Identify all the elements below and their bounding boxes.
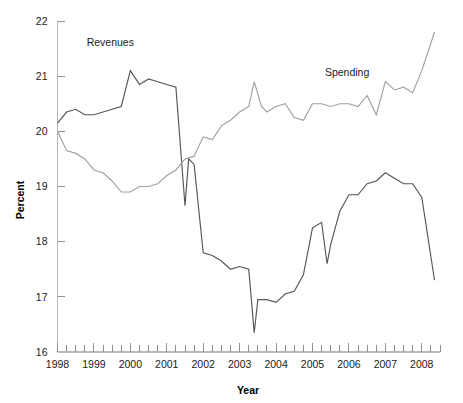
y-tick-label-20: 20 — [36, 125, 48, 137]
x-tick-label-2002: 2002 — [192, 358, 216, 370]
y-tick-label-18: 18 — [36, 235, 48, 247]
y-tick-label-19: 19 — [36, 180, 48, 192]
series-annotation-revenues: Revenues — [87, 36, 134, 48]
x-tick-label-2007: 2007 — [374, 358, 398, 370]
x-tick-label-2003: 2003 — [228, 358, 252, 370]
series-annotation-spending: Spending — [325, 66, 370, 78]
x-tick-label-1999: 1999 — [82, 358, 106, 370]
y-tick-label-17: 17 — [36, 291, 48, 303]
x-axis-tick-labels: 1998199920002001200220032004200520062007… — [46, 358, 434, 370]
x-axis-title: Year — [237, 384, 259, 396]
x-tick-label-2000: 2000 — [119, 358, 143, 370]
x-tick-label-2001: 2001 — [155, 358, 179, 370]
chart-container: 16171819202122 1998199920002001200220032… — [0, 0, 463, 403]
y-tick-label-22: 22 — [36, 15, 48, 27]
x-tick-label-1998: 1998 — [46, 358, 70, 370]
x-tick-label-2006: 2006 — [337, 358, 361, 370]
x-tick-label-2008: 2008 — [410, 358, 434, 370]
y-tick-label-16: 16 — [36, 346, 48, 358]
y-tick-label-21: 21 — [36, 70, 48, 82]
chart-background — [0, 0, 463, 403]
line-chart: 16171819202122 1998199920002001200220032… — [0, 0, 463, 403]
x-tick-label-2004: 2004 — [264, 358, 288, 370]
x-tick-label-2005: 2005 — [301, 358, 325, 370]
y-axis-title: Percent — [14, 180, 26, 219]
